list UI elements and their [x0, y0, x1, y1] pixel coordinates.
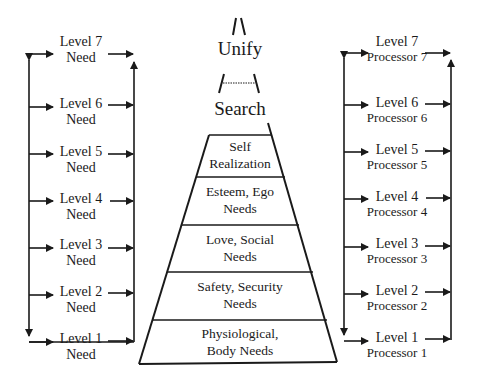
- level-title: Level 3: [50, 237, 112, 253]
- pyramid-layer-safety: Safety, Security Needs: [180, 278, 300, 312]
- level-subtitle: Need: [50, 347, 112, 363]
- pyramid-layer-love-social: Love, Social Needs: [190, 231, 290, 265]
- level-subtitle: Need: [50, 112, 112, 128]
- level-subtitle: Need: [50, 300, 112, 316]
- level-title: Level 5: [50, 144, 112, 160]
- level-title: Level 3: [365, 236, 429, 252]
- layer-line2: Needs: [190, 200, 290, 217]
- layer-line1: Love, Social: [190, 231, 290, 248]
- level-subtitle: Processor 3: [365, 252, 429, 266]
- level-title: Level 1: [365, 330, 429, 346]
- layer-line1: Self: [200, 138, 280, 155]
- need-level-6: Level 6 Need: [50, 96, 112, 128]
- layer-line1: Physiological,: [180, 325, 300, 342]
- layer-line2: Body Needs: [180, 342, 300, 359]
- search-label: Search: [204, 98, 276, 120]
- level-title: Level 6: [365, 95, 429, 111]
- level-subtitle: Processor 1: [365, 346, 429, 360]
- pyramid-layer-esteem: Esteem, Ego Needs: [190, 183, 290, 217]
- search-segment: [219, 74, 259, 93]
- processor-level-7: Level 7 Processor 7: [365, 34, 429, 64]
- layer-line2: Realization: [200, 155, 280, 172]
- level-subtitle: Need: [50, 160, 112, 176]
- pyramid-layer-physiological: Physiological, Body Needs: [180, 325, 300, 359]
- level-title: Level 7: [365, 34, 429, 50]
- pyramid-layer-self-realization: Self Realization: [200, 138, 280, 172]
- need-level-2: Level 2 Need: [50, 284, 112, 316]
- unify-label: Unify: [204, 38, 276, 60]
- processor-level-4: Level 4 Processor 4: [365, 189, 429, 219]
- level-subtitle: Processor 4: [365, 205, 429, 219]
- processor-level-5: Level 5 Processor 5: [365, 142, 429, 172]
- level-title: Level 7: [50, 34, 112, 50]
- level-subtitle: Need: [50, 207, 112, 223]
- level-subtitle: Processor 6: [365, 111, 429, 125]
- level-title: Level 6: [50, 96, 112, 112]
- layer-line1: Esteem, Ego: [190, 183, 290, 200]
- need-level-4: Level 4 Need: [50, 191, 112, 223]
- need-level-7: Level 7 Need: [50, 34, 112, 66]
- processor-level-1: Level 1 Processor 1: [365, 330, 429, 360]
- level-title: Level 2: [50, 284, 112, 300]
- layer-line1: Safety, Security: [180, 278, 300, 295]
- level-subtitle: Processor 5: [365, 158, 429, 172]
- need-level-1: Level 1 Need: [50, 331, 112, 363]
- level-title: Level 1: [50, 331, 112, 347]
- level-subtitle: Need: [50, 253, 112, 269]
- level-title: Level 2: [365, 283, 429, 299]
- level-subtitle: Processor 7: [365, 50, 429, 64]
- level-subtitle: Processor 2: [365, 299, 429, 313]
- need-level-5: Level 5 Need: [50, 144, 112, 176]
- layer-line2: Needs: [190, 248, 290, 265]
- need-level-3: Level 3 Need: [50, 237, 112, 269]
- processor-level-2: Level 2 Processor 2: [365, 283, 429, 313]
- level-title: Level 4: [50, 191, 112, 207]
- layer-line2: Needs: [180, 295, 300, 312]
- processor-level-6: Level 6 Processor 6: [365, 95, 429, 125]
- apex-marks: [233, 18, 245, 35]
- processor-level-3: Level 3 Processor 3: [365, 236, 429, 266]
- level-title: Level 4: [365, 189, 429, 205]
- level-subtitle: Need: [50, 50, 112, 66]
- level-title: Level 5: [365, 142, 429, 158]
